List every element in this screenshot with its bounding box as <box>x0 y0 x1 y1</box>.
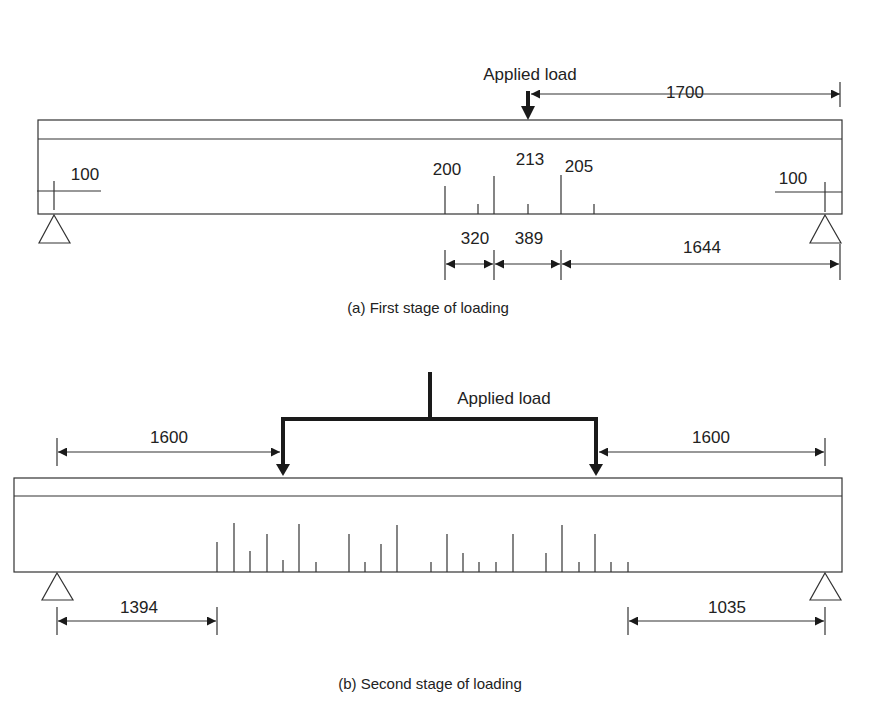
beam-crack-diagram: Applied load 1700 100 100 200 213 205 <box>0 0 876 727</box>
crack-label: 213 <box>516 150 544 169</box>
dim-1644-label: 1644 <box>683 238 721 257</box>
dim-1035-label: 1035 <box>708 598 746 617</box>
support-icon-left-b <box>42 573 73 600</box>
caption-b: (b) Second stage of loading <box>338 675 521 692</box>
arrow-head-icon <box>521 106 535 120</box>
figure-a: Applied load 1700 100 100 200 213 205 <box>37 65 842 316</box>
dim-1600-left-label: 1600 <box>150 428 188 447</box>
bottom-dimensions-a: 320 389 1644 <box>445 229 840 280</box>
crack-label: 200 <box>433 160 461 179</box>
applied-load-label-b: Applied load <box>457 389 551 408</box>
tick-right-label: 100 <box>779 169 807 188</box>
beam-b <box>14 478 842 572</box>
crack-label: 205 <box>565 157 593 176</box>
dim-1394-label: 1394 <box>120 598 158 617</box>
applied-load-label-a: Applied load <box>483 65 577 84</box>
support-icon-right-b <box>810 573 841 600</box>
arrow-head-icon <box>589 464 603 476</box>
figure-b: Applied load 1600 1600 <box>14 372 842 692</box>
cracks-a <box>445 175 594 214</box>
dim-320-label: 320 <box>461 229 489 248</box>
spreader-beam <box>283 419 596 466</box>
dim-1600-right-label: 1600 <box>692 428 730 447</box>
dim-389-label: 389 <box>515 229 543 248</box>
tick-left-label: 100 <box>71 165 99 184</box>
arrow-head-icon <box>276 464 290 476</box>
support-icon-right-a <box>810 215 841 243</box>
cracks-b <box>217 523 628 572</box>
support-icon-left-a <box>39 215 70 243</box>
dim-1700-label: 1700 <box>666 83 704 102</box>
caption-a: (a) First stage of loading <box>347 299 509 316</box>
